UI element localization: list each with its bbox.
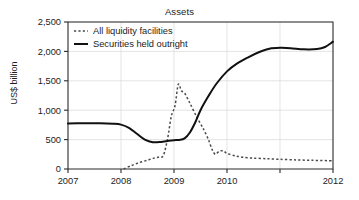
x-axis-ticks: 20072008200920102012 — [58, 169, 344, 186]
y-tick-label: 0 — [56, 164, 61, 174]
legend-label: All liquidity facilities — [93, 26, 173, 36]
x-tick-label: 2008 — [111, 176, 132, 186]
y-tick-label: 1,000 — [38, 106, 61, 116]
y-tick-label: 500 — [45, 135, 61, 145]
y-tick-label: 1,500 — [38, 76, 61, 86]
x-tick-label: 2010 — [217, 176, 238, 186]
y-tick-label: 2,500 — [38, 17, 61, 27]
series-line-dotted — [124, 84, 333, 169]
legend-label: Securities held outright — [93, 39, 188, 49]
series-line-solid — [68, 42, 333, 143]
plot-area: 05001,0001,5002,0002,500 200720082009201… — [0, 0, 359, 200]
x-tick-label: 2009 — [164, 176, 185, 186]
chart-figure: Assets US$ billion 05001,0001,5002,0002,… — [0, 0, 359, 200]
legend: All liquidity facilitiesSecurities held … — [74, 26, 188, 49]
x-tick-label: 2012 — [323, 176, 344, 186]
y-axis-ticks: 05001,0001,5002,0002,500 — [38, 17, 68, 174]
x-tick-label: 2007 — [58, 176, 79, 186]
data-series — [68, 42, 333, 169]
y-tick-label: 2,000 — [38, 47, 61, 57]
